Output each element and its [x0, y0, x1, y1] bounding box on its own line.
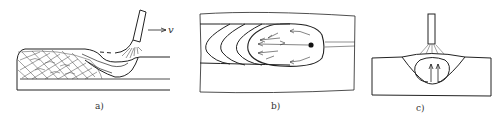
caption-c: c) [416, 103, 425, 113]
panel-b-top-view: b) [170, 0, 360, 123]
weld-pool-cross-section-drawing [360, 0, 504, 123]
caption-a: a) [95, 101, 104, 111]
caption-b: b) [271, 101, 280, 111]
panel-a-side-view: v a) [0, 0, 170, 123]
weld-pool-top-view-drawing [170, 0, 360, 123]
panel-c-cross-section: c) [360, 0, 504, 123]
weld-pool-side-view-drawing [0, 0, 170, 123]
